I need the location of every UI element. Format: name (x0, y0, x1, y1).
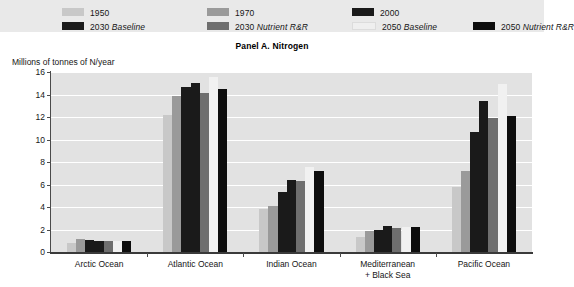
bar (163, 115, 172, 252)
bar (172, 96, 181, 252)
bar (85, 240, 94, 252)
bar (200, 93, 209, 252)
y-tick-label-8: 8 (19, 157, 45, 167)
bar (268, 206, 277, 252)
bar (191, 83, 200, 252)
bar (122, 241, 131, 252)
legend-row-2: 2030 Baseline 2030 Nutrient R&R 2050 Bas… (62, 17, 532, 30)
bar (488, 118, 497, 252)
bar (94, 241, 103, 252)
x-category-label-1: Atlantic Ocean (147, 259, 243, 270)
y-tick-label-2: 2 (19, 225, 45, 235)
bar (314, 171, 323, 252)
legend-swatch-1950 (62, 8, 84, 16)
legend-swatch-2000 (352, 8, 374, 16)
legend-item-2030-baseline: 2030 Baseline (62, 17, 145, 30)
legend-row-1: 1950 1970 2000 (62, 3, 532, 16)
bar (278, 192, 287, 252)
bar (209, 77, 218, 253)
x-tick-mark-0 (147, 253, 148, 257)
x-category-label-2: Indian Ocean (243, 259, 339, 270)
bar (452, 187, 461, 252)
legend-label-2030-nutrient-rr: 2030 Nutrient R&R (235, 22, 308, 32)
bar (507, 116, 516, 252)
panel-title: Panel A. Nitrogen (0, 41, 544, 51)
plot-area (51, 72, 532, 252)
bar-group-4 (452, 72, 516, 252)
bar (365, 231, 374, 252)
x-category-label-0: Arctic Ocean (51, 259, 147, 270)
bar (479, 101, 488, 252)
bar (356, 237, 365, 252)
bar (305, 167, 314, 253)
bar (392, 228, 401, 252)
x-category-label-3: Mediterranean+ Black Sea (340, 259, 436, 281)
legend-item-1970: 1970 (207, 3, 254, 16)
category-label-line: Atlantic Ocean (147, 259, 243, 270)
category-label-line: + Black Sea (340, 270, 436, 281)
y-tick-label-10: 10 (19, 135, 45, 145)
y-tick-label-0: 0 (19, 247, 45, 257)
legend-label-2030-baseline: 2030 Baseline (90, 22, 145, 32)
legend-label-2050-nutrient-rr: 2050 Nutrient R&R (501, 22, 574, 32)
y-tick-label-6: 6 (19, 180, 45, 190)
x-axis-line (50, 252, 533, 254)
bar-group-1 (163, 72, 227, 252)
legend-item-2000: 2000 (352, 3, 399, 16)
bar (113, 241, 122, 252)
legend-swatch-2030-baseline (62, 22, 84, 30)
legend-swatch-2050-nutrient-rr (473, 22, 495, 30)
bar (104, 241, 113, 252)
bar (296, 181, 305, 252)
y-tick-label-4: 4 (19, 202, 45, 212)
legend-item-1950: 1950 (62, 3, 109, 16)
y-axis-line (50, 71, 51, 253)
category-label-line: Mediterranean (340, 259, 436, 270)
category-label-line: Indian Ocean (243, 259, 339, 270)
bar (287, 180, 296, 252)
category-label-line: Arctic Ocean (51, 259, 147, 270)
bar (461, 171, 470, 252)
bar (498, 84, 507, 252)
bar-group-2 (259, 72, 323, 252)
category-label-line: Pacific Ocean (436, 259, 532, 270)
bar (259, 209, 268, 252)
y-axis-unit-label: Millions of tonnes of N/year (12, 57, 115, 67)
legend-swatch-1970 (207, 8, 229, 16)
legend-swatch-2050-baseline (352, 22, 376, 30)
bar (76, 239, 85, 253)
y-tick-label-14: 14 (19, 90, 45, 100)
x-category-label-4: Pacific Ocean (436, 259, 532, 270)
legend-item-2050-nutrient-rr: 2050 Nutrient R&R (473, 17, 574, 30)
legend-item-2050-baseline: 2050 Baseline (352, 17, 437, 30)
legend-label-2050-baseline: 2050 Baseline (382, 22, 437, 32)
x-tick-mark-2 (340, 253, 341, 257)
bar (411, 227, 420, 252)
bar (181, 87, 190, 252)
y-tick-label-16: 16 (19, 67, 45, 77)
chart-legend: 1950 1970 2000 2030 Baseline 2030 Nutrie… (62, 3, 532, 31)
bar (470, 132, 479, 252)
bar-group-3 (356, 72, 420, 252)
x-tick-mark-3 (436, 253, 437, 257)
bar-group-0 (67, 72, 131, 252)
legend-item-2030-nutrient-rr: 2030 Nutrient R&R (207, 17, 308, 30)
bar (402, 227, 411, 252)
bar (67, 243, 76, 252)
bar (218, 89, 227, 252)
bar (383, 226, 392, 252)
legend-swatch-2030-nutrient-rr (207, 22, 229, 30)
bar (374, 230, 383, 253)
y-tick-label-12: 12 (19, 112, 45, 122)
x-tick-mark-1 (243, 253, 244, 257)
legend-band: 1950 1970 2000 2030 Baseline 2030 Nutrie… (0, 0, 544, 32)
